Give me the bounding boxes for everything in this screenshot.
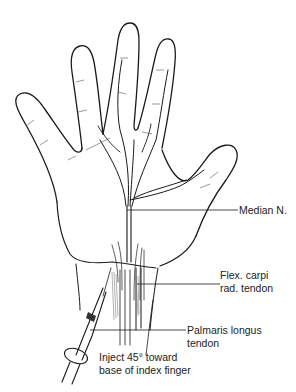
leader-lines [90,210,238,330]
injection-instruction-label: Inject 45° toward base of index finger [99,351,191,376]
wrist-tendons [112,242,144,345]
hand-outline [16,23,238,355]
flex-carpi-rad-tendon-label: Flex. carpi rad. tendon [220,269,273,294]
median-nerve-branches [98,60,204,262]
median-nerve-label: Median N. [239,204,287,217]
palmaris-longus-tendon-label: Palmaris longus tendon [187,324,262,349]
